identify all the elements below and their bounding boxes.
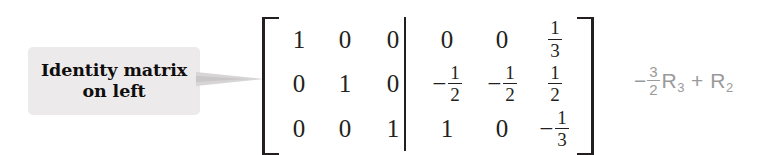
- row-operation-target-row-letter: R: [662, 69, 677, 93]
- matrix-cell-r2c5-sign: −: [487, 71, 501, 96]
- matrix-cell-r1c3: 0: [387, 27, 400, 52]
- row-operation-sign: −: [634, 69, 646, 93]
- matrix-cell-r3c6-sign: −: [539, 116, 553, 141]
- matrix-cell-r3c4: 1: [441, 116, 454, 141]
- callout-label: Identity matrix on left: [28, 47, 200, 115]
- callout-label-line-1: Identity matrix: [41, 60, 187, 81]
- row-operation-added-row-letter: R: [710, 69, 725, 93]
- matrix-cell-r2c4-numerator: 1: [448, 63, 462, 83]
- matrix-cell-r2c6: 1 2: [546, 63, 562, 105]
- row-operation-target-row-subscript: 3: [677, 80, 684, 95]
- matrix-cell-r1c6-denominator: 3: [548, 39, 562, 60]
- matrix-cell-r3c5: 0: [496, 116, 509, 141]
- row-operation-annotation: − 3 2 R 3 + R 2: [634, 64, 733, 98]
- matrix-cell-r1c1: 1: [293, 27, 306, 52]
- matrix-cell-r2c6-numerator: 1: [548, 63, 562, 83]
- callout-label-line-2: on left: [82, 81, 145, 102]
- row-operation-coefficient-denominator: 2: [647, 80, 659, 97]
- matrix-cell-r2c4-denominator: 2: [448, 83, 462, 104]
- row-operation-operator: +: [691, 69, 703, 93]
- matrix-cell-r2c4-fraction: 1 2: [448, 63, 462, 105]
- row-operation-added-row-subscript: 2: [726, 80, 733, 95]
- matrix-cell-r1c6: 1 3: [546, 18, 562, 60]
- matrix-cell-r2c5-numerator: 1: [503, 63, 517, 83]
- matrix-cell-r3c6: − 1 3: [539, 108, 569, 150]
- matrix-cell-r3c6-denominator: 3: [555, 128, 569, 149]
- matrix-cell-r3c2: 0: [339, 116, 352, 141]
- matrix-cell-r3c6-numerator: 1: [555, 108, 569, 128]
- row-operation-target-row: R 3: [662, 69, 684, 93]
- matrix-cell-r2c2: 1: [339, 71, 352, 96]
- matrix-cell-r3c1: 0: [293, 116, 306, 141]
- row-operation-coefficient-numerator: 3: [647, 64, 659, 80]
- matrix-cell-r2c6-denominator: 2: [548, 83, 562, 104]
- matrix-cell-r2c5: − 1 2: [487, 63, 517, 105]
- matrix-cell-r2c5-fraction: 1 2: [503, 63, 517, 105]
- matrix-cell-r1c4: 0: [441, 27, 454, 52]
- matrix-cell-r2c5-denominator: 2: [503, 83, 517, 104]
- row-operation-added-row: R 2: [710, 69, 732, 93]
- matrix-cell-r1c6-fraction: 1 3: [548, 18, 562, 60]
- matrix-cell-r1c5: 0: [496, 27, 509, 52]
- matrix-cell-r2c4: − 1 2: [432, 63, 462, 105]
- matrix-cell-r1c6-numerator: 1: [548, 18, 562, 38]
- matrix-cell-r2c3: 0: [387, 71, 400, 96]
- matrix-cell-r1c2: 0: [339, 27, 352, 52]
- row-operation-coefficient: 3 2: [647, 64, 659, 98]
- matrix-cell-r2c6-fraction: 1 2: [548, 63, 562, 105]
- callout-arrow-icon: [196, 63, 264, 95]
- matrix-grid: 1 0 0 0 0 1 3 0 1 0 − 1 2 − 1 2: [276, 17, 580, 151]
- matrix-cell-r3c6-fraction: 1 3: [555, 108, 569, 150]
- matrix-cell-r2c4-sign: −: [432, 71, 446, 96]
- matrix-cell-r2c1: 0: [293, 71, 306, 96]
- matrix-cell-r3c3: 1: [387, 116, 400, 141]
- augmented-matrix: 1 0 0 0 0 1 3 0 1 0 − 1 2 − 1 2: [262, 17, 594, 151]
